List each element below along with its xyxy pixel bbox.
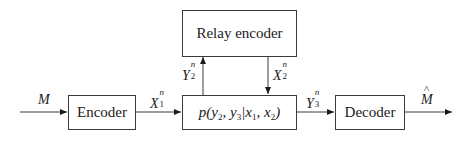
signal-label-message-in: M (38, 93, 50, 107)
signal-label-y2n: Yn2 (182, 66, 199, 83)
decoder-block: Decoder (335, 95, 405, 130)
encoder-block: Encoder (68, 95, 136, 130)
signal-label-x1n: Xn1 (150, 94, 168, 111)
relay-encoder-label: Relay encoder (196, 25, 282, 42)
channel-label: p(y2, y3|x1, x2) (199, 104, 280, 122)
signal-label-y3n: Yn3 (306, 94, 323, 111)
decoder-label: Decoder (345, 104, 396, 121)
encoder-label: Encoder (77, 104, 127, 121)
relay-encoder-block: Relay encoder (182, 10, 297, 57)
signal-label-message-out: M (421, 93, 433, 107)
hat-accent: M (421, 93, 433, 107)
signal-label-x2n: Xn2 (273, 66, 291, 83)
channel-block: p(y2, y3|x1, x2) (182, 95, 297, 130)
